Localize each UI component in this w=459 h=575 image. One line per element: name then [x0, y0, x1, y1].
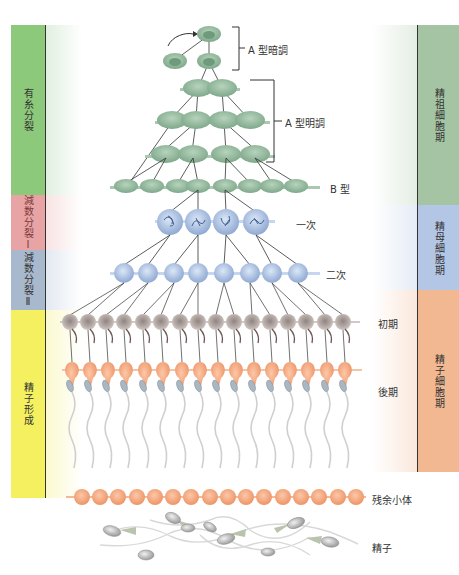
label-a-dark: A 型暗調: [248, 42, 288, 57]
a-pale-row-1: [180, 79, 240, 97]
label-sperm: 精子: [372, 540, 392, 555]
primary-lines: [170, 190, 256, 212]
early-spermatid-lines: [70, 283, 343, 315]
b-type-row: [110, 179, 320, 193]
primary-spermatocyte-row: [155, 209, 275, 235]
self-renewal-arrow: [168, 34, 193, 47]
label-late-spermatid: 後期: [378, 384, 398, 399]
bracket-a-dark: [232, 27, 245, 70]
label-residual-body: 残余小体: [372, 492, 412, 507]
label-primary: 一次: [296, 217, 316, 232]
label-secondary: 二次: [326, 267, 346, 282]
early-spermatid-row: [60, 314, 360, 343]
label-a-pale: A 型明調: [285, 115, 325, 130]
residual-body-row: [66, 489, 366, 505]
flagella: [69, 392, 349, 468]
label-b-type: B 型: [330, 181, 350, 196]
a-pale-row-2: [155, 111, 270, 129]
sperm-group: [100, 510, 358, 560]
secondary-spermatocyte-row: [110, 263, 320, 283]
spermatogenesis-diagram: [0, 0, 459, 575]
secondary-lines: [124, 235, 298, 265]
late-spermatid-row: [62, 362, 362, 468]
label-early-spermatid: 初期: [378, 316, 398, 331]
